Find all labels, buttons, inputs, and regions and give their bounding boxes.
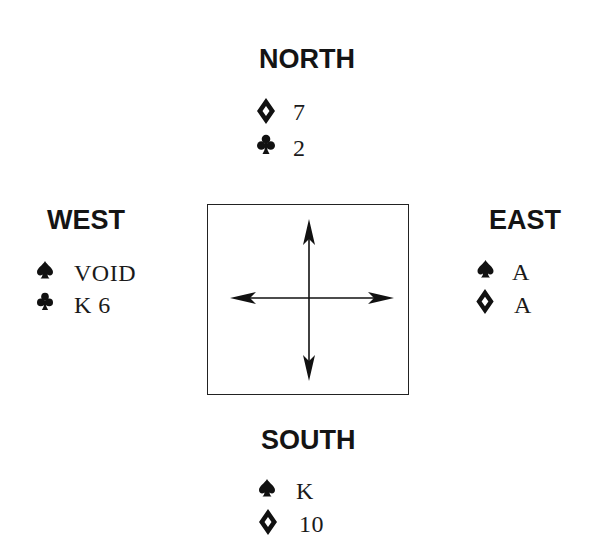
north-diamond-cards: 7 <box>293 98 306 126</box>
north-label: NORTH <box>259 44 355 74</box>
south-label: SOUTH <box>261 425 356 455</box>
diamond-icon <box>257 509 279 537</box>
east-hand: EAST A A <box>475 205 598 325</box>
south-hand: SOUTH K 10 <box>257 425 397 550</box>
west-club-cards: K 6 <box>74 291 111 319</box>
diamond-icon <box>475 289 497 317</box>
club-icon <box>257 134 279 162</box>
east-spade-cards: A <box>512 258 530 286</box>
west-hand: WEST VOID K 6 <box>37 205 197 325</box>
table-box <box>207 204 409 395</box>
spade-icon <box>258 479 280 507</box>
compass-arrows-icon <box>208 205 408 394</box>
diamond-icon <box>257 98 279 126</box>
north-hand: NORTH 7 2 <box>257 44 397 164</box>
club-icon <box>37 292 59 320</box>
south-diamond-cards: 10 <box>299 510 324 538</box>
east-diamond-cards: A <box>514 291 532 319</box>
east-label: EAST <box>489 205 561 235</box>
north-club-cards: 2 <box>293 134 306 162</box>
west-label: WEST <box>47 205 125 235</box>
spade-icon <box>477 260 499 288</box>
spade-icon <box>37 261 59 289</box>
south-spade-cards: K <box>296 477 314 505</box>
west-spade-cards: VOID <box>74 259 136 287</box>
